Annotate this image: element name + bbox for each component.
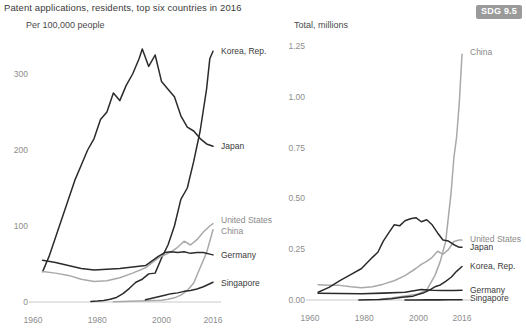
y-axis-tick-label: 0.25 — [288, 244, 305, 254]
y-axis-tick-label: 200 — [14, 145, 28, 155]
plot-area-left: 01002003001960198020002016Korea, Rep.Jap… — [0, 0, 272, 336]
series-line — [318, 218, 462, 293]
chart-panel-right: Total, millions 0.000.250.500.751.001.25… — [272, 0, 526, 336]
series-label: Singapore — [470, 293, 509, 303]
series-line — [113, 230, 213, 302]
y-axis-tick-label: 1.25 — [288, 41, 305, 51]
chart-panel-left: Per 100,000 people 010020030019601980200… — [0, 0, 272, 336]
series-label: Singapore — [221, 278, 260, 288]
x-axis-tick-label: 2000 — [409, 313, 428, 323]
series-label: China — [470, 47, 492, 57]
x-axis-tick-label: 2016 — [453, 313, 472, 323]
figure-container: Patent applications, residents, top six … — [0, 0, 526, 336]
y-axis-tick-label: 0.75 — [288, 143, 305, 153]
series-line — [146, 282, 214, 299]
series-label: Korea, Rep. — [470, 261, 515, 271]
series-label: Germany — [221, 250, 257, 260]
series-line — [318, 289, 462, 293]
series-line — [378, 54, 462, 299]
plot-area-right: 0.000.250.500.751.001.251960198020002016… — [272, 0, 526, 336]
x-axis-tick-label: 2000 — [152, 315, 171, 325]
x-axis-tick-label: 1960 — [301, 313, 320, 323]
x-axis-tick-label: 2016 — [204, 315, 223, 325]
series-label: United States — [221, 215, 272, 225]
x-axis-tick-label: 1980 — [88, 315, 107, 325]
y-axis-tick-label: 0.00 — [288, 295, 305, 305]
series-line — [43, 49, 213, 272]
series-label: Japan — [470, 242, 493, 252]
series-line — [43, 252, 213, 270]
y-axis-tick-label: 1.00 — [288, 92, 305, 102]
y-axis-tick-label: 100 — [14, 221, 28, 231]
series-label: Korea, Rep. — [221, 46, 266, 56]
y-axis-tick-label: 0.50 — [288, 193, 305, 203]
y-axis-tick-label: 300 — [14, 69, 28, 79]
x-axis-tick-label: 1960 — [24, 315, 43, 325]
series-label: China — [221, 226, 243, 236]
x-axis-tick-label: 1980 — [355, 313, 374, 323]
series-line — [91, 51, 213, 301]
series-label: Japan — [221, 141, 244, 151]
y-axis-tick-label: 0 — [23, 297, 28, 307]
